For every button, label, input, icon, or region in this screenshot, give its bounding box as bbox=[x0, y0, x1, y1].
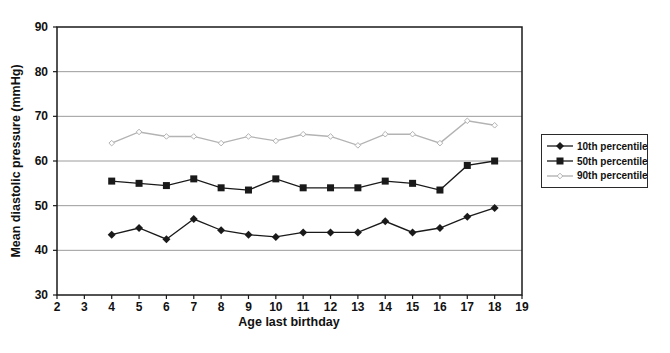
svg-text:17: 17 bbox=[461, 300, 475, 314]
svg-text:60: 60 bbox=[35, 154, 49, 168]
svg-text:18: 18 bbox=[488, 300, 502, 314]
series-50th-percentile bbox=[108, 158, 498, 194]
svg-text:70: 70 bbox=[35, 109, 49, 123]
chart-figure: 2345678910111213141516171819304050607080… bbox=[0, 0, 670, 353]
svg-text:6: 6 bbox=[163, 300, 170, 314]
y-tick-labels: 30405060708090 bbox=[35, 20, 49, 302]
svg-text:9: 9 bbox=[245, 300, 252, 314]
svg-text:50: 50 bbox=[35, 199, 49, 213]
svg-text:16: 16 bbox=[433, 300, 447, 314]
svg-text:13: 13 bbox=[351, 300, 365, 314]
svg-text:90: 90 bbox=[35, 20, 49, 34]
legend-marker-90th-percentile-icon bbox=[547, 171, 573, 181]
svg-text:4: 4 bbox=[108, 300, 115, 314]
y-axis-title: Mean diastolic pressure (mmHg) bbox=[9, 64, 23, 257]
legend-label: 10th percentile bbox=[577, 141, 648, 152]
svg-text:11: 11 bbox=[297, 300, 310, 314]
axis-ticks bbox=[53, 27, 522, 299]
svg-text:15: 15 bbox=[406, 300, 420, 314]
svg-text:5: 5 bbox=[136, 300, 143, 314]
data-point-markers bbox=[108, 204, 499, 243]
svg-text:80: 80 bbox=[35, 65, 49, 79]
svg-text:12: 12 bbox=[324, 300, 338, 314]
svg-text:3: 3 bbox=[81, 300, 88, 314]
svg-text:14: 14 bbox=[379, 300, 393, 314]
data-point-markers bbox=[108, 158, 498, 194]
data-point-markers bbox=[109, 118, 498, 148]
legend-item-10th-percentile: 10th percentile bbox=[547, 141, 644, 152]
legend-label: 90th percentile bbox=[577, 170, 648, 181]
svg-text:40: 40 bbox=[35, 243, 49, 257]
svg-text:10: 10 bbox=[269, 300, 283, 314]
svg-text:19: 19 bbox=[515, 300, 529, 314]
svg-text:30: 30 bbox=[35, 288, 49, 302]
legend-item-90th-percentile: 90th percentile bbox=[547, 170, 644, 181]
legend-marker-10th-percentile-icon bbox=[547, 141, 573, 151]
legend: 10th percentile 50th percentile 90th per… bbox=[541, 134, 648, 188]
svg-text:7: 7 bbox=[190, 300, 197, 314]
x-tick-labels: 2345678910111213141516171819 bbox=[54, 300, 529, 314]
legend-marker-50th-percentile-icon bbox=[547, 156, 573, 166]
x-axis-title: Age last birthday bbox=[238, 315, 339, 329]
series-90th-percentile bbox=[109, 118, 498, 148]
series-10th-percentile bbox=[108, 204, 499, 243]
svg-text:8: 8 bbox=[218, 300, 225, 314]
svg-text:2: 2 bbox=[54, 300, 61, 314]
legend-item-50th-percentile: 50th percentile bbox=[547, 156, 644, 167]
legend-label: 50th percentile bbox=[577, 156, 648, 167]
